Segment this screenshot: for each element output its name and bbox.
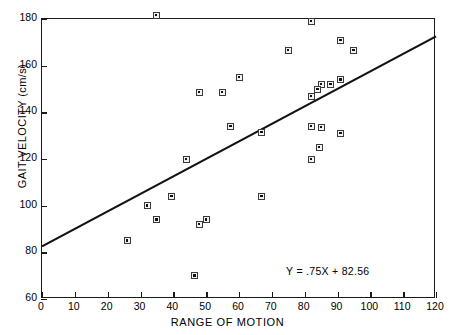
data-point <box>308 93 315 100</box>
data-point <box>183 156 190 163</box>
data-point <box>258 193 265 200</box>
data-point <box>196 221 203 228</box>
data-point <box>219 89 226 96</box>
data-point <box>227 123 234 130</box>
x-tick-label: 120 <box>415 301 455 312</box>
y-tick <box>41 299 47 300</box>
x-tick <box>436 292 437 298</box>
data-point <box>153 12 160 19</box>
x-tick <box>370 292 371 298</box>
data-point <box>144 202 151 209</box>
y-tick <box>41 159 47 160</box>
data-point <box>236 74 243 81</box>
x-tick <box>141 292 142 298</box>
x-tick <box>338 292 339 298</box>
regression-line <box>42 19 436 299</box>
data-point <box>203 216 210 223</box>
scatter-chart-figure: GAIT VELOCITY (cm/s) RANGE OF MOTION 608… <box>0 0 455 335</box>
data-point <box>350 47 357 54</box>
x-tick <box>206 292 207 298</box>
x-tick <box>272 292 273 298</box>
y-tick <box>41 66 47 67</box>
x-tick <box>305 292 306 298</box>
x-tick <box>239 292 240 298</box>
data-point <box>196 89 203 96</box>
x-tick <box>108 292 109 298</box>
data-point <box>337 130 344 137</box>
data-point <box>308 18 315 25</box>
data-point <box>318 124 325 131</box>
x-tick <box>173 292 174 298</box>
data-point <box>153 216 160 223</box>
data-point <box>327 81 334 88</box>
data-point <box>285 47 292 54</box>
data-point <box>337 37 344 44</box>
data-point <box>308 156 315 163</box>
data-point <box>337 76 344 83</box>
x-tick <box>75 292 76 298</box>
data-point <box>168 193 175 200</box>
y-tick <box>41 206 47 207</box>
y-tick <box>41 252 47 253</box>
data-point <box>316 144 323 151</box>
equation-annotation: Y = .75X + 82.56 <box>286 265 369 277</box>
data-point <box>308 123 315 130</box>
data-point <box>314 86 321 93</box>
x-tick <box>42 292 43 298</box>
data-point <box>124 237 131 244</box>
data-point <box>191 272 198 279</box>
y-tick <box>41 19 47 20</box>
y-tick <box>41 112 47 113</box>
x-tick <box>403 292 404 298</box>
data-point <box>258 129 265 136</box>
plot-area: Y = .75X + 82.56 <box>41 18 435 298</box>
